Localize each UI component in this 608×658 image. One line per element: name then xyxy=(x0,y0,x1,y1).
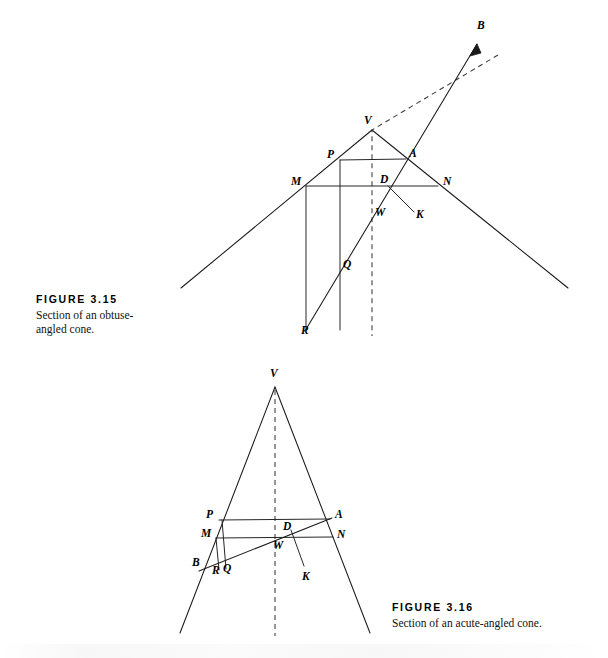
point-label-r-316: R xyxy=(212,565,220,577)
point-label-b-316: B xyxy=(192,557,200,569)
point-label-b-315: B xyxy=(477,20,485,32)
chord-pa-316 xyxy=(219,519,330,520)
figure-3-15-geometry xyxy=(181,44,568,336)
page-bottom-scan-artifact xyxy=(0,644,608,658)
cone-left-generatrix-316 xyxy=(180,387,275,633)
cone-axis-dashed-315 xyxy=(372,55,498,336)
point-label-d-316: D xyxy=(283,521,291,533)
point-label-q-315: Q xyxy=(343,259,351,271)
point-label-v-316: V xyxy=(270,368,278,380)
cone-right-generatrix-316 xyxy=(275,387,370,633)
figure-page: B V P A M D N W K Q R V P A M D N W B R … xyxy=(0,0,608,658)
figure-3-15-caption-title: FIGURE 3.15 xyxy=(36,293,156,306)
point-label-r-315: R xyxy=(301,325,309,337)
point-label-d-315: D xyxy=(380,174,388,186)
segment-dk-316 xyxy=(291,530,304,566)
figure-3-16-caption: FIGURE 3.16 Section of an acute-angled c… xyxy=(392,601,542,630)
figure-3-15-caption: FIGURE 3.15 Section of an obtuse-angled … xyxy=(36,293,156,336)
figure-3-16-caption-title: FIGURE 3.16 xyxy=(392,601,542,614)
point-label-v-315: V xyxy=(364,115,372,127)
point-label-n-315: N xyxy=(443,176,451,188)
point-label-k-315: K xyxy=(416,209,424,221)
segment-dk-315 xyxy=(388,186,414,212)
point-label-w-316: W xyxy=(273,540,283,552)
point-label-a-316: A xyxy=(335,509,343,521)
point-label-p-315: P xyxy=(327,149,334,161)
chord-pa-315 xyxy=(340,159,406,160)
chord-mn-316 xyxy=(216,537,333,538)
point-label-a-315: A xyxy=(409,148,417,160)
cone-right-generatrix-315 xyxy=(372,130,568,288)
point-label-m-315: M xyxy=(291,176,301,188)
arrowhead-b-315 xyxy=(470,44,481,56)
section-line-rb-315 xyxy=(305,44,477,331)
point-label-q-316: Q xyxy=(223,563,231,575)
point-label-k-316: K xyxy=(302,571,310,583)
point-label-m-316: M xyxy=(201,528,211,540)
figure-3-15-caption-text: Section of an obtuse-angled cone. xyxy=(36,308,156,336)
point-label-p-316: P xyxy=(206,509,213,521)
point-label-n-316: N xyxy=(337,529,345,541)
point-label-w-315: W xyxy=(375,207,385,219)
figure-3-16-caption-text: Section of an acute-angled cone. xyxy=(392,616,542,630)
